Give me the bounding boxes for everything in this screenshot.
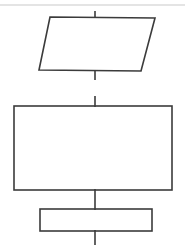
rectangle-process-small[interactable] bbox=[40, 209, 152, 231]
flowchart-diagram bbox=[0, 0, 185, 249]
parallelogram-input-output[interactable] bbox=[39, 17, 155, 71]
rectangle-process-large[interactable] bbox=[14, 106, 172, 190]
flowchart-canvas bbox=[0, 0, 185, 249]
